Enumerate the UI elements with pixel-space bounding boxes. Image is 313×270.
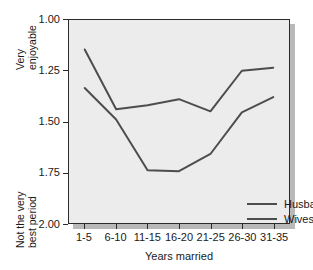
legend-item-husbands: Husbands xyxy=(247,196,313,211)
y-tick-mark xyxy=(63,224,68,225)
x-tick-mark xyxy=(242,224,243,229)
x-tick-mark xyxy=(147,224,148,229)
y-axis-top-annotation-line1: Very xyxy=(14,49,26,70)
y-tick-mark xyxy=(63,19,68,20)
series-canvas xyxy=(69,20,289,223)
x-tick-mark xyxy=(116,224,117,229)
x-axis-title: Years married xyxy=(68,250,290,262)
y-axis-bottom-annotation-line2: best period xyxy=(26,196,38,248)
plot-area: Husbands Wives xyxy=(68,19,290,224)
legend-swatch-wives xyxy=(247,218,277,220)
series-line-wives xyxy=(85,88,274,171)
x-tick-mark xyxy=(84,224,85,229)
y-tick-label: 1.00 xyxy=(28,14,60,25)
x-tick-mark xyxy=(274,224,275,229)
legend-swatch-husbands xyxy=(247,203,277,205)
legend-label-husbands: Husbands xyxy=(284,198,313,210)
chart-figure: Husbands Wives 1.001.251.501.752.00 1-56… xyxy=(0,0,313,270)
x-tick-label: 31-35 xyxy=(251,232,297,243)
legend-item-wives: Wives xyxy=(247,211,313,226)
y-tick-label: 1.50 xyxy=(28,116,60,127)
x-tick-mark xyxy=(179,224,180,229)
y-axis-bottom-annotation-line1: Not the very xyxy=(14,191,26,248)
y-tick-mark xyxy=(63,70,68,71)
chart-legend: Husbands Wives xyxy=(247,196,313,226)
x-tick-mark xyxy=(211,224,212,229)
y-axis-top-annotation-line2: enjoyable xyxy=(26,25,38,70)
y-tick-mark xyxy=(63,122,68,123)
y-tick-mark xyxy=(63,173,68,174)
series-line-husbands xyxy=(85,49,274,111)
y-tick-label: 1.75 xyxy=(28,167,60,178)
legend-label-wives: Wives xyxy=(284,213,313,225)
